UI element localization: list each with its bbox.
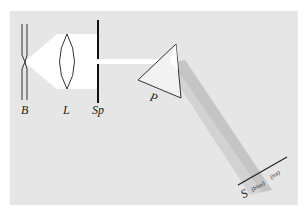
label-lamp: B <box>21 103 29 117</box>
label-prism: P <box>147 90 159 106</box>
spectrum-fan-inner <box>172 60 272 192</box>
label-red: (rot) <box>269 169 282 180</box>
label-slit: Sp <box>92 103 104 117</box>
label-lens: L <box>62 103 70 117</box>
light-cone <box>24 34 57 89</box>
spectrometer-diagram: B L Sp P S (blau) (rot) <box>0 0 306 218</box>
